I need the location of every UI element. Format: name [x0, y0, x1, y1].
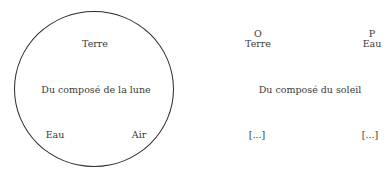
- sun-right-element: Eau: [363, 39, 382, 49]
- moon-element-air: Air: [132, 130, 146, 140]
- sun-left-ellipsis: [...]: [249, 130, 265, 140]
- sun-title: Du composé du soleil: [259, 85, 362, 95]
- moon-element-terre: Terre: [82, 39, 108, 49]
- moon-element-eau: Eau: [46, 130, 65, 140]
- sun-right-column-header: P Eau: [363, 29, 382, 49]
- moon-title: Du composé de la lune: [41, 85, 150, 95]
- sun-left-element: Terre: [245, 39, 271, 49]
- sun-left-column-header: O Terre: [245, 29, 271, 49]
- sun-right-ellipsis: [...]: [362, 130, 378, 140]
